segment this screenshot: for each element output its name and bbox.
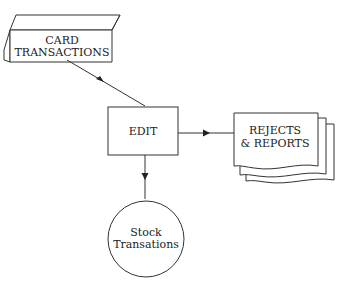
card-label-2: TRANSACTIONS [15,46,110,59]
edge-edit-to-stock [142,155,149,199]
reports-label-2: & REPORTS [241,137,310,150]
edit-label: EDIT [129,125,158,138]
edge-card-to-edit [67,60,145,106]
edge-edit-to-reports [178,130,238,137]
flowchart-canvas: CARD TRANSACTIONS EDIT REJECTS & REPORTS… [0,0,343,283]
reports-label-1: REJECTS [249,124,301,137]
stock-label-2: Transations [113,238,179,251]
